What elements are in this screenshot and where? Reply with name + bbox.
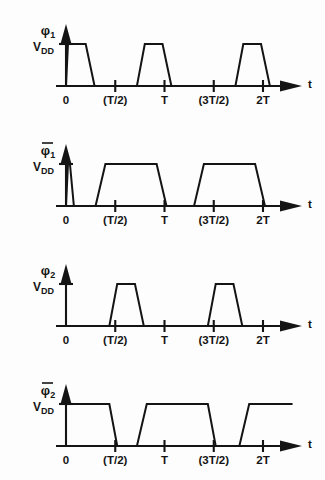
signal-waveform-trace (66, 404, 293, 446)
x-axis-tick-label: 2T (256, 334, 269, 346)
vdd-axis-label: VDD (33, 280, 55, 296)
amplitude-axis-arrow-icon (61, 24, 72, 44)
amplitude-axis-arrow-icon (61, 264, 72, 284)
vdd-axis-label: VDD (33, 400, 55, 416)
x-axis-tick-label: 0 (63, 454, 69, 466)
signal-waveform-trace (66, 164, 297, 206)
x-axis-tick-label: (3T/2) (198, 94, 229, 106)
x-axis-tick-label: 0 (63, 94, 69, 106)
signal-name-label: φ1 (41, 23, 55, 40)
x-axis-tick-label: 2T (256, 454, 269, 466)
waveform-panel-phi1-bar: tVDD0(T/2)T(3T/2)2Tφ1 (0, 120, 325, 240)
signal-name-subscript: 1 (50, 30, 55, 40)
signal-name-label: φ1 (41, 143, 55, 160)
signal-name-label: φ2 (41, 383, 55, 400)
waveform-svg-phi1-bar: tVDD0(T/2)T(3T/2)2Tφ1 (0, 120, 325, 240)
x-axis-tick-label: 2T (256, 94, 269, 106)
vdd-axis-label-subscript: DD (41, 286, 54, 296)
signal-name-subscript: 2 (50, 270, 55, 280)
vdd-axis-label-subscript: DD (41, 406, 54, 416)
vdd-axis-label-subscript: DD (41, 46, 54, 56)
x-axis-tick-label: (3T/2) (198, 334, 229, 346)
signal-name-label: φ2 (41, 263, 55, 280)
x-axis-tick-label: T (161, 214, 168, 226)
x-axis-tick-label: 0 (63, 214, 69, 226)
x-axis-tick-label: T (161, 454, 168, 466)
signal-name-subscript: 2 (50, 390, 55, 400)
x-axis-tick-label: T (161, 94, 168, 106)
x-axis-tick-label: 0 (63, 334, 69, 346)
waveform-panel-phi1: tVDD0(T/2)T(3T/2)2Tφ1 (0, 0, 325, 120)
time-axis-label: t (308, 198, 312, 210)
signal-waveform-trace (66, 44, 297, 86)
vdd-axis-label-subscript: DD (41, 166, 54, 176)
amplitude-axis-arrow-icon (61, 384, 72, 404)
x-axis-tick-label: (T/2) (103, 214, 127, 226)
amplitude-axis-arrow-icon (61, 144, 72, 164)
timing-diagram-figure: tVDD0(T/2)T(3T/2)2Tφ1 tVDD0(T/2)T(3T/2)2… (0, 0, 325, 480)
waveform-svg-phi2: tVDD0(T/2)T(3T/2)2Tφ2 (0, 240, 325, 360)
x-axis-tick-label: (T/2) (103, 94, 127, 106)
waveform-panel-phi2: tVDD0(T/2)T(3T/2)2Tφ2 (0, 240, 325, 360)
vdd-axis-label: VDD (33, 40, 55, 56)
x-axis-tick-label: T (161, 334, 168, 346)
x-axis-tick-label: (3T/2) (198, 214, 229, 226)
x-axis-tick-label: (T/2) (103, 454, 127, 466)
time-axis-label: t (308, 318, 312, 330)
time-axis-arrow-icon (280, 441, 302, 452)
x-axis-tick-label: (3T/2) (198, 454, 229, 466)
signal-name-subscript: 1 (50, 150, 55, 160)
time-axis-label: t (308, 438, 312, 450)
waveform-svg-phi1: tVDD0(T/2)T(3T/2)2Tφ1 (0, 0, 325, 120)
time-axis-label: t (308, 78, 312, 90)
vdd-axis-label: VDD (33, 160, 55, 176)
waveform-svg-phi2-bar: tVDD0(T/2)T(3T/2)2Tφ2 (0, 360, 325, 480)
x-axis-tick-label: 2T (256, 214, 269, 226)
signal-waveform-trace (66, 284, 297, 326)
waveform-panel-phi2-bar: tVDD0(T/2)T(3T/2)2Tφ2 (0, 360, 325, 480)
x-axis-tick-label: (T/2) (103, 334, 127, 346)
